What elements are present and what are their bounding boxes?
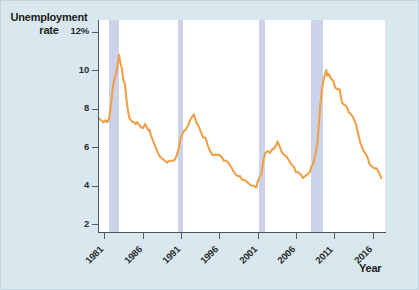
x-axis-line bbox=[98, 232, 386, 233]
x-axis-tick bbox=[373, 233, 374, 239]
x-axis-tick bbox=[296, 233, 297, 239]
y-axis-tick bbox=[92, 32, 98, 33]
axis-layer: 24681012%1981198619911996200120062011201… bbox=[0, 0, 419, 290]
x-axis-tick-label: 2001 bbox=[237, 244, 259, 266]
x-axis-tick-label: 1981 bbox=[83, 244, 105, 266]
y-axis-tick-label: 6 bbox=[84, 142, 89, 152]
x-axis-tick-label: 2016 bbox=[352, 244, 374, 266]
x-axis-tick bbox=[258, 233, 259, 239]
x-axis-tick bbox=[334, 233, 335, 239]
y-axis-tick bbox=[92, 70, 98, 71]
x-axis-tick-label: 1996 bbox=[198, 244, 220, 266]
x-axis-tick bbox=[143, 233, 144, 239]
x-axis-tick-label: 2011 bbox=[313, 244, 335, 266]
x-axis-tick-label: 1986 bbox=[122, 244, 144, 266]
y-axis-line bbox=[98, 20, 99, 232]
y-axis-tick bbox=[92, 186, 98, 187]
x-axis-tick-label: 1991 bbox=[160, 244, 182, 266]
y-axis-tick bbox=[92, 147, 98, 148]
x-axis-tick bbox=[104, 233, 105, 239]
y-axis-tick-label: 10 bbox=[79, 65, 89, 75]
x-axis-tick-label: 2006 bbox=[275, 244, 297, 266]
y-axis-tick bbox=[92, 224, 98, 225]
y-axis-tick-label: 8 bbox=[84, 103, 89, 113]
x-axis-tick bbox=[181, 233, 182, 239]
unemployment-rate-chart-figure: 24681012%1981198619911996200120062011201… bbox=[0, 0, 419, 290]
y-axis-tick-label: 2 bbox=[84, 219, 89, 229]
y-axis-tick-label: 12% bbox=[71, 26, 89, 36]
x-axis-tick bbox=[219, 233, 220, 239]
y-axis-tick-label: 4 bbox=[84, 180, 89, 190]
y-axis-tick bbox=[92, 109, 98, 110]
